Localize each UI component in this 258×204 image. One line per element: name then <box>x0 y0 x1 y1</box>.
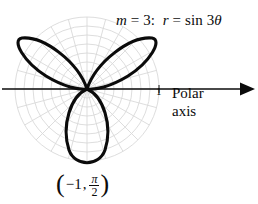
polar-rose-figure: m = 3: r = sin 3θ 1 Polar axis ( −1 , π … <box>0 0 258 204</box>
point-open-paren: ( <box>56 171 65 197</box>
point-label: ( −1 , π 2 ) <box>56 172 109 198</box>
point-r-value: −1 <box>65 177 83 193</box>
point-close-paren: ) <box>100 171 109 197</box>
polar-axis-caption: Polar axis <box>172 85 242 120</box>
polar-axis-caption-line1: Polar <box>172 85 242 103</box>
equation-equals-1: = <box>127 12 143 28</box>
point-theta-fraction: π 2 <box>88 173 100 198</box>
equation-sin: sin <box>185 12 203 28</box>
point-theta-numerator: π <box>89 173 99 185</box>
equation-colon: : <box>151 12 155 28</box>
equation-equals-2: = <box>169 12 185 28</box>
axis-tick-label-one: 1 <box>156 86 162 98</box>
point-theta-denominator: 2 <box>89 186 99 198</box>
equation-m-value: 3 <box>143 12 151 28</box>
polar-axis-caption-line2: axis <box>172 103 242 121</box>
equation-label: m = 3: r = sin 3θ <box>116 13 222 29</box>
equation-m-var: m <box>116 12 127 28</box>
equation-theta: θ <box>214 12 221 28</box>
